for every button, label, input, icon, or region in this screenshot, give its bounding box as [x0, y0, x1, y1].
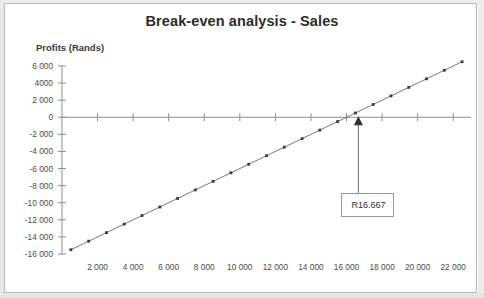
y-tick-label: -8 000	[0, 181, 53, 191]
y-tick-label: 0	[0, 112, 53, 122]
y-tick-label: 4000	[0, 78, 53, 88]
axis-lines	[62, 66, 471, 254]
annotation-arrow	[354, 116, 363, 193]
annotation-callout-box: R16.667	[341, 193, 394, 217]
data-series	[69, 60, 463, 251]
y-tick-label: -2 000	[0, 129, 53, 139]
plot-area	[0, 0, 484, 298]
y-tick-label: -12 000	[0, 215, 53, 225]
y-tick-label: -4 000	[0, 146, 53, 156]
y-tick-label: 6 000	[0, 61, 53, 71]
y-tick-label: 2 000	[0, 95, 53, 105]
y-tick-label: -10 000	[0, 198, 53, 208]
annotation-label: R16.667	[342, 194, 395, 218]
y-tick-label: -14 000	[0, 232, 53, 242]
y-tick-label: -6 000	[0, 164, 53, 174]
chart-figure: Break-even analysis - Sales Profits (Ran…	[0, 0, 484, 298]
x-tick-label: 22 000	[427, 262, 479, 272]
y-tick-label: -16 000	[0, 249, 53, 259]
